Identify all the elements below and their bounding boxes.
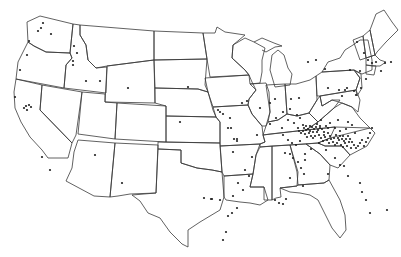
location-dot (354, 132, 356, 134)
location-dot (324, 68, 326, 70)
location-dot (76, 52, 78, 54)
state-arizona (66, 140, 115, 197)
state-arkansas (220, 144, 260, 176)
us-map (0, 0, 401, 257)
location-dot (303, 173, 305, 175)
state-florida (280, 180, 346, 238)
location-dot (375, 61, 377, 63)
location-dot (327, 173, 329, 175)
location-dot (242, 189, 244, 191)
location-dot (309, 125, 311, 127)
state-louisiana (224, 174, 268, 205)
state-nevada (40, 85, 82, 143)
location-dot (324, 136, 326, 138)
location-dot (30, 106, 32, 108)
location-dot (292, 157, 294, 159)
location-dot (363, 145, 365, 147)
location-dot (290, 98, 292, 100)
location-dot (241, 102, 243, 104)
location-dot (269, 123, 271, 125)
location-dot (300, 167, 302, 169)
location-dot (187, 86, 189, 88)
location-dot (284, 152, 286, 154)
location-dot (338, 89, 340, 91)
location-dot (73, 45, 75, 47)
state-nebraska (155, 88, 216, 117)
state-kansas (166, 116, 220, 143)
state-west-virginia (309, 96, 340, 122)
location-dot (282, 111, 284, 113)
location-dot (244, 169, 246, 171)
location-dot (351, 124, 353, 126)
location-dot (336, 142, 338, 144)
location-dot (318, 142, 320, 144)
location-dot (367, 59, 369, 61)
location-dot (320, 119, 322, 121)
location-dot (304, 133, 306, 135)
location-dot (50, 33, 52, 35)
location-dot (312, 131, 314, 133)
location-dot (222, 113, 224, 115)
location-dot (72, 60, 74, 62)
location-dot (304, 153, 306, 155)
location-dot (339, 130, 341, 132)
location-dot (344, 142, 346, 144)
location-dot (344, 89, 346, 91)
location-dot (337, 119, 339, 121)
location-dot (305, 125, 307, 127)
state-wisconsin (232, 38, 265, 84)
location-dot (340, 144, 342, 146)
state-massachusetts (366, 55, 386, 66)
location-dot (363, 52, 365, 54)
location-dot (236, 207, 238, 209)
location-dot (219, 199, 221, 201)
location-dot (246, 100, 248, 102)
location-dot (371, 127, 373, 129)
location-dot (309, 130, 311, 132)
location-dot (338, 139, 340, 141)
location-dot (295, 144, 297, 146)
location-dot (347, 121, 349, 123)
location-dot (343, 140, 345, 142)
location-dot (314, 135, 316, 137)
location-dot (203, 197, 205, 199)
location-dot (274, 98, 276, 100)
location-dot (325, 125, 327, 127)
location-dot (353, 144, 355, 146)
location-dot (355, 94, 357, 96)
location-dot (278, 202, 280, 204)
location-dot (251, 156, 253, 158)
location-dot (256, 134, 258, 136)
location-dot (380, 70, 382, 72)
location-dot (282, 203, 284, 205)
location-dot (291, 142, 293, 144)
location-dot (321, 128, 323, 130)
state-wyoming (105, 60, 155, 103)
location-dot (275, 117, 277, 119)
location-dot (316, 131, 318, 133)
location-dot (349, 138, 351, 140)
location-dot (231, 212, 233, 214)
location-dot (333, 137, 335, 139)
location-dot (305, 129, 307, 131)
location-dot (360, 87, 362, 89)
location-dot (334, 157, 336, 159)
location-dot (289, 177, 291, 179)
state-idaho (64, 24, 107, 93)
location-dot (318, 134, 320, 136)
location-dot (310, 148, 312, 150)
location-dot (42, 22, 44, 24)
state-boundaries (14, 10, 398, 247)
location-dot (384, 62, 386, 64)
location-dot (229, 117, 231, 119)
location-dot (347, 175, 349, 177)
location-dot (353, 90, 355, 92)
location-dot (308, 132, 310, 134)
location-dot (355, 147, 357, 149)
location-dot (326, 139, 328, 141)
location-dot (285, 198, 287, 200)
location-dot (390, 61, 392, 63)
location-dot (99, 80, 101, 82)
location-dot (289, 108, 291, 110)
location-dot (341, 95, 343, 97)
